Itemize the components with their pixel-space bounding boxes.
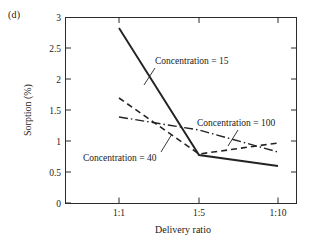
y-tick-label-0_5: 0.5: [49, 168, 61, 178]
y-axis-ticks: [66, 18, 72, 204]
y-tick-label-2: 2: [56, 75, 61, 85]
y-tick-label-1_5: 1.5: [49, 106, 61, 116]
line-chart: 0 0.5 1 1.5 2 2.5 3 1:1 1:5 1:10 Deliver…: [0, 0, 310, 246]
y-tick-label-2_5: 2.5: [49, 44, 61, 54]
leader-line-concentration-100: [228, 130, 238, 146]
annotation-concentration-15: Concentration = 15: [155, 56, 229, 66]
annotation-concentration-100: Concentration = 100: [197, 118, 275, 128]
leader-line-concentration-40: [161, 134, 172, 152]
x-axis-ticks: [119, 18, 278, 204]
x-tick-label-1-10: 1:10: [270, 208, 287, 218]
y-tick-label-1: 1: [56, 137, 61, 147]
annotation-concentration-40: Concentration = 40: [83, 153, 157, 163]
x-tick-label-1-1: 1:1: [113, 208, 125, 218]
x-axis-title: Delivery ratio: [155, 224, 211, 235]
y-axis-title: Sorption (%): [22, 84, 34, 136]
plot-frame: [66, 18, 297, 204]
x-tick-labels: 1:1 1:5 1:10: [113, 208, 287, 218]
figure-panel-d: (d) 0 0.5 1 1.5 2 2.5: [0, 0, 310, 246]
y-tick-label-0: 0: [56, 199, 61, 209]
y-tick-labels: 0 0.5 1 1.5 2 2.5 3: [49, 13, 61, 209]
y-tick-label-3: 3: [56, 13, 61, 23]
y-axis-ticks-right: [291, 48, 297, 172]
x-tick-label-1-5: 1:5: [193, 208, 205, 218]
